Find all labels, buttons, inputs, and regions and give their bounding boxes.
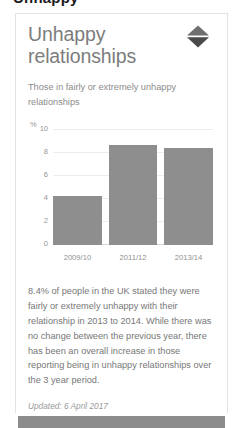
chart-bar-column (164, 130, 213, 245)
chart-bar (53, 196, 102, 245)
y-axis-tick-label: 6 (44, 171, 48, 179)
chart-bar (164, 148, 213, 245)
y-axis-unit-label: % (30, 120, 37, 129)
chart-plot-area: 1086420 (53, 130, 213, 245)
page-title: Unhappy relationships (28, 23, 178, 67)
statistic-card: Unhappy relationships Those in fairly or… (15, 13, 228, 413)
x-axis-tick-label: 2011/12 (109, 253, 158, 262)
sort-diamond-icon[interactable] (186, 25, 210, 48)
x-axis-tick-label: 2009/10 (53, 253, 102, 262)
card-subtitle: Those in fairly or extremely unhappy rel… (28, 80, 183, 109)
updated-timestamp: Updated: 6 April 2017 (28, 401, 215, 411)
clipped-page-headline: Unhappy (13, 0, 79, 6)
chart-bar-column (109, 130, 158, 245)
chart-bar (109, 145, 158, 245)
bar-chart: % 1086420 2009/102011/122013/14 (28, 120, 215, 268)
y-axis-tick-label: 2 (44, 217, 48, 225)
x-axis-labels: 2009/102011/122013/14 (53, 253, 213, 262)
card-body: Unhappy relationships Those in fairly or… (16, 14, 227, 411)
y-axis-tick-label: 4 (44, 194, 48, 202)
y-axis-tick-label: 10 (40, 125, 48, 133)
chart-bar-column (53, 130, 102, 245)
card-description: 8.4% of people in the UK stated they wer… (28, 284, 215, 388)
y-axis-tick-label: 8 (44, 148, 48, 156)
y-axis-tick-label: 0 (44, 240, 48, 248)
card-footer-bar (18, 416, 225, 428)
x-axis-tick-label: 2013/14 (164, 253, 213, 262)
card-header: Unhappy relationships (28, 14, 215, 67)
chart-bars (53, 130, 213, 245)
